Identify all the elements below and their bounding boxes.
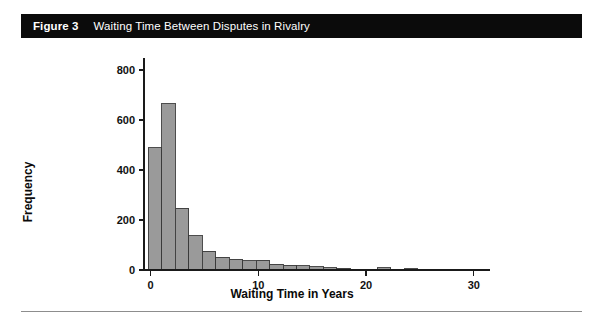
histogram-bar xyxy=(175,208,188,270)
y-axis-tick-label: 400 xyxy=(117,164,135,176)
figure-number-label: Figure 3 xyxy=(33,20,79,32)
x-axis-tick-label: 30 xyxy=(468,279,480,291)
y-axis-tick-label: 200 xyxy=(117,214,135,226)
histogram-bar xyxy=(270,264,283,270)
histogram-bar xyxy=(297,266,310,271)
histogram-bar xyxy=(189,236,202,271)
histogram-bars-group xyxy=(148,104,458,271)
x-axis-tick-label: 0 xyxy=(147,279,153,291)
histogram-bar xyxy=(256,260,269,270)
y-axis-tick-label: 0 xyxy=(129,264,135,276)
histogram-bar xyxy=(216,257,229,270)
y-axis-tick-label: 600 xyxy=(117,114,135,126)
histogram-bar xyxy=(148,148,161,271)
histogram-bar xyxy=(202,251,215,270)
histogram-bar xyxy=(162,104,175,270)
chart-plot-area: 0200400600800 0102030 Frequency Waiting … xyxy=(0,40,603,302)
figure-header-banner: Figure 3 Waiting Time Between Disputes i… xyxy=(21,14,582,38)
y-axis-title: Frequency xyxy=(21,161,35,222)
y-axis-group: 0200400600800 xyxy=(117,58,144,276)
figure-container: Figure 3 Waiting Time Between Disputes i… xyxy=(0,0,603,326)
y-axis-tick-label: 800 xyxy=(117,64,135,76)
figure-title: Waiting Time Between Disputes in Rivalry xyxy=(94,20,310,32)
x-axis-title: Waiting Time in Years xyxy=(230,287,353,301)
x-axis-tick-label: 20 xyxy=(360,279,372,291)
histogram-chart: 0200400600800 0102030 Frequency Waiting … xyxy=(0,40,603,302)
histogram-bar xyxy=(243,261,256,271)
footer-divider xyxy=(21,311,582,312)
histogram-bar xyxy=(229,259,242,270)
histogram-bar xyxy=(283,265,296,270)
